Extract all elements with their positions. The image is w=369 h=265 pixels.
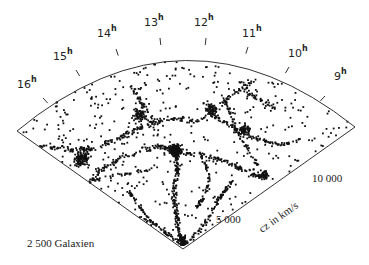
hour-label: 15h bbox=[53, 47, 73, 63]
hour-label: 13h bbox=[144, 13, 164, 29]
tick-mark bbox=[246, 47, 248, 54]
hour-label: 16h bbox=[17, 75, 37, 91]
wedge-diagram: 16h15h14h13h12h11h10h9h 5 00010 000 cz i… bbox=[0, 0, 369, 265]
tick-mark bbox=[285, 67, 289, 73]
right-ascension-labels: 16h15h14h13h12h11h10h9h bbox=[17, 13, 347, 91]
axis-label-cz: cz in km/s bbox=[256, 199, 300, 235]
hour-label: 12h bbox=[194, 13, 214, 29]
galaxy-redshift-survey-figure: 16h15h14h13h12h11h10h9h 5 00010 000 cz i… bbox=[0, 0, 369, 265]
tick-mark bbox=[160, 38, 161, 45]
tick-mark bbox=[205, 38, 206, 45]
hour-label: 9h bbox=[334, 67, 347, 83]
tick-mark bbox=[116, 49, 118, 56]
galaxy-points bbox=[23, 61, 349, 246]
velocity-label: 10 000 bbox=[312, 172, 343, 184]
tick-mark bbox=[320, 96, 325, 101]
hour-label: 10h bbox=[288, 44, 308, 60]
velocity-label: 5 000 bbox=[216, 213, 241, 225]
galaxy-count-caption: 2 500 Galaxien bbox=[27, 237, 95, 249]
tick-mark bbox=[43, 98, 48, 103]
hour-tick-marks bbox=[43, 38, 325, 103]
hour-label: 14h bbox=[97, 24, 117, 40]
tick-mark bbox=[76, 70, 80, 76]
hour-label: 11h bbox=[242, 24, 262, 40]
